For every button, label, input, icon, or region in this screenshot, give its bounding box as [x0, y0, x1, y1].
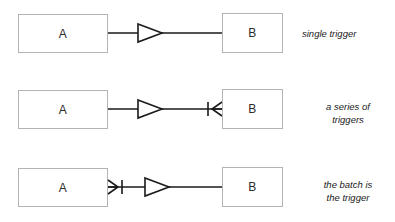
hollow-triangle-arrowhead-icon — [145, 178, 169, 196]
entity-box-a[interactable]: A — [18, 14, 108, 53]
hollow-triangle-arrowhead-icon — [138, 24, 162, 42]
hollow-triangle-arrowhead-icon — [138, 100, 162, 118]
entity-label-a: A — [59, 103, 67, 117]
row-caption-batch-is-trigger: the batch is the trigger — [302, 178, 394, 204]
entity-box-b[interactable]: B — [222, 167, 283, 207]
diagram-row-single-trigger: A B single trigger — [0, 0, 395, 74]
entity-box-b[interactable]: B — [222, 13, 283, 53]
entity-label-a: A — [59, 27, 67, 41]
connector-series-of-triggers — [100, 84, 230, 134]
entity-label-b: B — [248, 180, 256, 194]
entity-box-a[interactable]: A — [18, 90, 108, 129]
row-caption-single-trigger: single trigger — [302, 27, 394, 40]
connector-single-trigger — [100, 8, 230, 58]
entity-box-b[interactable]: B — [222, 89, 283, 129]
entity-label-b: B — [248, 102, 256, 116]
crowsfoot-icon — [108, 180, 118, 194]
entity-label-a: A — [59, 181, 67, 195]
entity-box-a[interactable]: A — [18, 168, 108, 207]
connector-batch-is-trigger — [100, 162, 230, 212]
row-caption-series-of-triggers: a series of triggers — [302, 100, 394, 126]
crowsfoot-icon — [212, 102, 222, 116]
diagram-row-series-of-triggers: A B a series of triggers — [0, 76, 395, 150]
entity-label-b: B — [248, 26, 256, 40]
diagram-row-batch-is-trigger: A B the batch is the trigger — [0, 154, 395, 222]
diagram-canvas: A B single trigger A B a series of trigg… — [0, 0, 395, 222]
